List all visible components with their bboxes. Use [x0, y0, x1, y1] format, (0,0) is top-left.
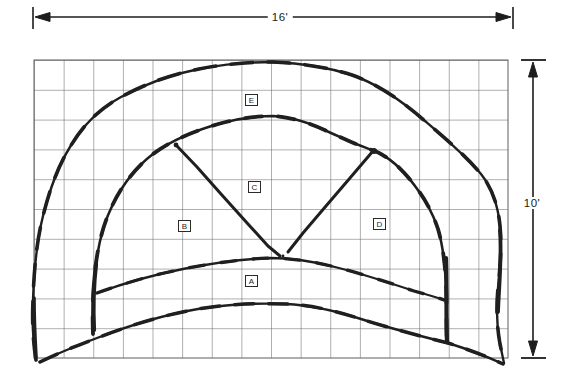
height-dimension-label: 10' [520, 197, 545, 209]
middle-arch-left-limb [93, 264, 96, 330]
layout-grid [34, 60, 508, 358]
fan-left-junction-blob [174, 143, 179, 148]
width-dimension-label: 16' [268, 11, 293, 23]
region-label-b: B [178, 220, 191, 232]
region-label-d: D [373, 218, 386, 230]
top-dimension-arrow-right [496, 13, 511, 22]
top-dimension-arrow-left [35, 13, 50, 22]
region-label-e: E [245, 94, 258, 106]
fan-right-junction-blob [371, 148, 377, 154]
outer-arch-left-limb [34, 298, 36, 357]
region-label-c: C [248, 181, 261, 193]
fan-apex-mark [282, 255, 285, 258]
middle-arch-right-limb [446, 258, 447, 342]
right-dimension-arrow-up [529, 62, 538, 77]
region-label-a: A [245, 275, 258, 287]
grid-enlargement-diagram [0, 0, 568, 385]
right-dimension-arrow-down [529, 341, 538, 356]
diagram-page: 16' 10' A B C D E [0, 0, 568, 385]
